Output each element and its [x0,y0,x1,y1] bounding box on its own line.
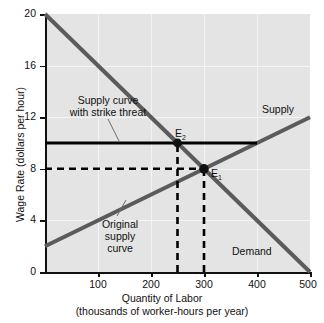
x-ticklabel-500: 500 [288,278,324,290]
point-label-e1-text: E [211,167,218,179]
supply-demand-chart: 0 4 8 12 16 20 100 200 300 400 500 E2 [0,0,324,323]
x-tick-300 [204,272,206,277]
gridline-x-300 [204,14,205,272]
x-tick-500 [310,272,312,277]
x-tick-400 [257,272,259,277]
strike-threat-annotation-line2: with strike threat [52,106,164,118]
point-label-e1-subscript: 1 [218,174,222,181]
x-ticklabel-400: 400 [237,278,277,290]
gridline-x-200 [151,14,152,272]
x-ticklabel-100: 100 [78,278,118,290]
y-tick-20 [40,14,45,16]
point-label-e2-text: E [175,127,182,139]
y-ticklabel-0: 0 [8,265,36,277]
x-ticklabel-200: 200 [131,278,171,290]
plot-area [45,14,310,272]
y-axis-line [45,14,47,272]
strike-threat-annotation-line1: Supply curve [52,94,164,106]
point-label-e2: E2 [175,127,186,141]
x-ticklabel-300: 300 [184,278,224,290]
y-ticklabel-16: 16 [8,59,36,71]
y-tick-4 [40,220,45,222]
y-tick-0 [40,272,45,274]
x-axis-title: Quantity of Labor (thousands of worker-h… [0,292,324,318]
point-label-e2-subscript: 2 [182,134,186,141]
y-tick-8 [40,169,45,171]
y-ticklabel-20: 20 [8,7,36,19]
supply-curve-label: Supply [262,103,294,115]
y-tick-16 [40,66,45,68]
strike-threat-annotation: Supply curve with strike threat [52,94,164,118]
x-axis-title-main: Quantity of Labor [0,292,324,305]
x-tick-200 [151,272,153,277]
x-axis-title-sub: (thousands of worker-hours per year) [0,305,324,318]
original-supply-annotation: Original supply curve [90,218,150,254]
original-supply-annotation-line1: Original [90,218,150,230]
demand-curve-label: Demand [232,245,272,257]
point-label-e1: E1 [211,167,222,181]
original-supply-annotation-line3: curve [90,242,150,254]
y-tick-12 [40,117,45,119]
gridline-y-16 [45,66,310,67]
gridline-x-400 [257,14,258,272]
gridline-y-4 [45,220,310,221]
y-axis-title: Wage Rate (dollars per hour) [14,87,26,222]
gridline-y-8 [45,169,310,170]
x-tick-100 [98,272,100,277]
original-supply-annotation-line2: supply [90,230,150,242]
x-axis-line [45,272,310,274]
